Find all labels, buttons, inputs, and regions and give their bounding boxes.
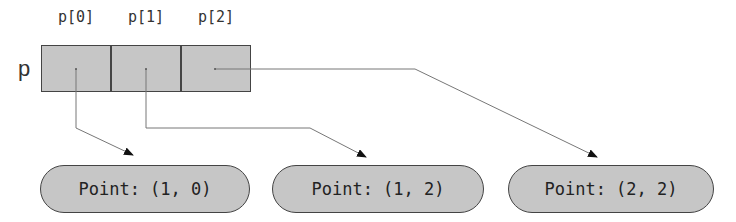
arrow-p1 bbox=[146, 69, 366, 157]
point-object-2: Point: (2, 2) bbox=[508, 165, 714, 213]
arrow-p2 bbox=[215, 69, 597, 157]
point-object-1: Point: (1, 2) bbox=[272, 165, 484, 213]
point-object-0: Point: (1, 0) bbox=[40, 165, 250, 213]
array-of-references-diagram: p[0] p[1] p[2] p Point: (1, 0) Point: (1… bbox=[0, 0, 736, 222]
arrow-p0 bbox=[76, 69, 133, 155]
